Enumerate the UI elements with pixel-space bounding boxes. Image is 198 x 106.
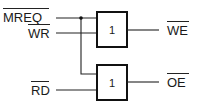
junction-dot — [79, 16, 83, 20]
input-label-wr: WR — [28, 26, 50, 41]
input-label-rd: RD — [31, 83, 50, 98]
input-label-mreq: MREQ — [3, 10, 42, 25]
output-label-oe: OE — [167, 75, 186, 90]
wire-mreq-branch — [81, 18, 97, 74]
gate-2-label: 1 — [109, 77, 115, 89]
output-label-we: WE — [167, 23, 188, 38]
logic-diagram: MREQ WR RD 1 1 WE OE — [0, 0, 198, 106]
gate-1-label: 1 — [109, 24, 115, 36]
